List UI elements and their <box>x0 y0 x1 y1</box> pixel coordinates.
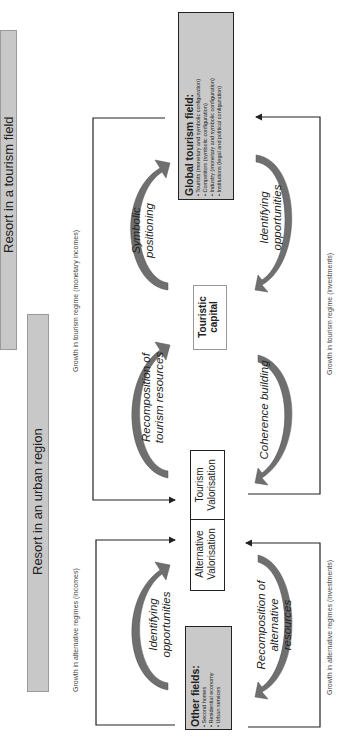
tourism-valorisation-label: Tourism Valorisation <box>194 454 218 516</box>
global-field-item: • Industry (monetary and symbolic config… <box>209 16 216 196</box>
global-field-item: • Competitors (symbolic configuration) <box>202 16 209 196</box>
global-field-item: • Tourists (monetary and symbolic config… <box>195 16 202 196</box>
process-identifying-opportunities-alt: Identifying opportunities <box>147 582 173 667</box>
global-tourism-field-content: Global tourism field: • Tourists (moneta… <box>183 16 223 196</box>
process-symbolic-positioning: Symbolic positioning <box>130 193 156 268</box>
diagram-graphics <box>0 0 350 755</box>
other-fields-item: • Urban services <box>215 627 222 727</box>
process-coherence-building: Coherence building <box>258 350 271 470</box>
other-fields-title: Other fields: <box>189 627 201 727</box>
process-recomposition-tourism: Recomposition of tourism resources <box>140 340 166 455</box>
alternative-valorisation-label: Alternative Valorisation <box>194 521 218 587</box>
touristic-capital-label: Touristic capital <box>197 292 219 342</box>
other-fields-item: • Residential economy <box>208 627 215 727</box>
process-identifying-opportunities-tourism: Identifying opportunities <box>258 175 284 260</box>
process-recomposition-alternative: Recomposition of alternative resources <box>255 575 294 675</box>
global-field-title: Global tourism field: <box>183 16 195 196</box>
global-field-item: • Institutions (legal and political conf… <box>216 16 223 196</box>
other-fields-content: Other fields: • Second homes • Residenti… <box>189 627 222 727</box>
other-fields-item: • Second homes <box>201 627 208 727</box>
